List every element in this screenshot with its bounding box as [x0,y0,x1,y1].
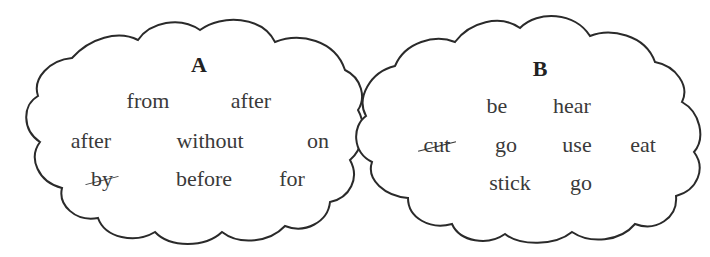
cloud-b-word: hear [553,95,591,117]
cloud-a-word: on [307,130,329,152]
cloud-a-word: after [231,90,271,112]
cloud-b-outline [356,16,700,243]
cloud-b-word: eat [630,134,656,156]
cloud-b-word: go [495,134,517,156]
cloud-a-word: after [71,130,111,152]
cloud-a-word: without [176,130,243,152]
cloud-b-title: B [533,56,548,82]
cloud-a-word: before [176,168,232,190]
cloud-a-word-crossed-out: by [91,168,113,190]
cloud-a-word: for [279,168,305,190]
cloud-b-word: use [562,134,591,156]
cloud-a-title: A [191,52,207,78]
cloud-a-word: from [127,90,170,112]
cloud-b-word: stick [489,172,531,194]
cloud-b-word: be [487,95,508,117]
cloud-b-word: go [570,172,592,194]
cloud-b-word-crossed-out: cut [424,134,451,156]
